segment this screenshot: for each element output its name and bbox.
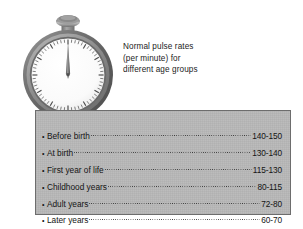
list-item: • At birth 130-140 xyxy=(42,144,282,161)
rate-label: Childhood years xyxy=(47,181,107,193)
leader-dots xyxy=(89,211,260,223)
list-item: • Before birth 140-150 xyxy=(42,127,282,144)
rate-value: 130-140 xyxy=(252,147,282,159)
caption-line-2: (per minute) for xyxy=(123,53,253,65)
list-item: • First year of life 115-130 xyxy=(42,161,282,178)
stopwatch-graphic xyxy=(22,12,114,122)
leader-dots xyxy=(105,161,252,173)
list-item: • Later years 60-70 xyxy=(42,211,282,228)
rate-value: 80-115 xyxy=(257,181,282,193)
pulse-rate-figure: Normal pulse rates (per minute) for diff… xyxy=(0,0,303,229)
rate-label: At birth xyxy=(47,147,73,159)
leader-dots xyxy=(108,177,256,189)
caption-line-1: Normal pulse rates xyxy=(123,41,253,53)
rate-value: 140-150 xyxy=(252,130,282,142)
list-item: • Adult years 72-80 xyxy=(42,194,282,211)
stopwatch-illustration xyxy=(22,12,114,122)
rate-value: 72-80 xyxy=(261,198,282,210)
leader-dots xyxy=(91,127,251,139)
rate-label: Adult years xyxy=(47,198,89,210)
rate-value: 115-130 xyxy=(253,164,282,176)
rate-label: Before birth xyxy=(47,130,90,142)
pulse-rate-panel: • Before birth 140-150 • At birth 130-14… xyxy=(35,110,291,215)
leader-dots xyxy=(89,194,260,206)
rate-value: 60-70 xyxy=(261,214,282,226)
pulse-rate-list: • Before birth 140-150 • At birth 130-14… xyxy=(42,127,282,228)
leader-dots xyxy=(74,144,251,156)
rate-label: Later years xyxy=(47,214,89,226)
caption-line-3: different age groups xyxy=(123,64,253,76)
stopwatch-crown xyxy=(56,15,80,27)
figure-caption: Normal pulse rates (per minute) for diff… xyxy=(123,41,253,76)
rate-label: First year of life xyxy=(47,164,104,176)
list-item: • Childhood years 80-115 xyxy=(42,177,282,194)
